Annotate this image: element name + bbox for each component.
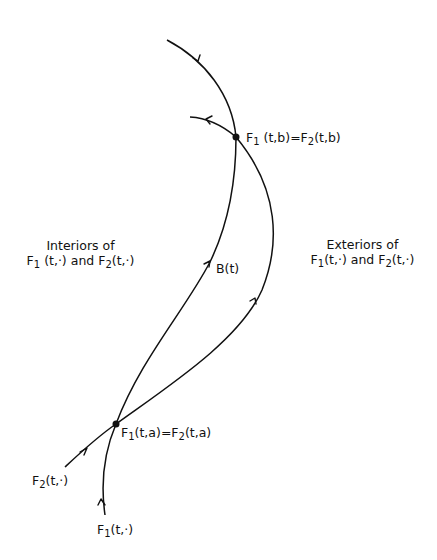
boundary-label: B(t) (216, 261, 239, 276)
exteriors-label: Exteriors of F1(t,·) and F2(t,·) (300, 237, 425, 271)
exteriors-formula: F1(t,·) and F2(t,·) (300, 252, 425, 271)
f2-args: (t,·) (112, 253, 135, 268)
bottom-intersection-dot (113, 421, 120, 428)
f1-top-arrow-icon (193, 55, 200, 61)
f1-args: (t,·) (111, 522, 134, 537)
f1-symbol: F (311, 252, 318, 267)
f1-args: (t,·) (324, 252, 347, 267)
f2-start-label: F2(t,·) (32, 473, 68, 492)
top-intersection-label: F1 (t,b)=F2(t,b) (246, 130, 341, 149)
f2-start-arrow-icon (80, 448, 87, 455)
f1-subscript: 1 (253, 136, 259, 147)
f1-symbol: F (27, 253, 34, 268)
and-text: and (67, 253, 98, 268)
f2-symbol: F (171, 425, 178, 440)
equals-sign: = (290, 130, 300, 145)
and-text: and (347, 252, 378, 267)
f2-args: (t,a) (185, 425, 211, 440)
f2-trajectory-curve (65, 117, 273, 467)
f2-args: (t,b) (314, 130, 341, 145)
f2-top-arrow-icon (206, 116, 212, 124)
f2-args: (t,·) (46, 473, 69, 488)
f2-symbol: F (301, 130, 308, 145)
f1-args: (t,a) (135, 425, 161, 440)
bottom-intersection-label: F1(t,a)=F2(t,a) (121, 425, 211, 444)
f1-args: (t,b) (264, 130, 291, 145)
interiors-heading: Interiors of (18, 238, 143, 253)
top-intersection-dot (233, 134, 240, 141)
f1-start-label: F1(t,·) (97, 522, 133, 541)
f2-args: (t,·) (392, 252, 415, 267)
f1-args: (t,·) (40, 253, 67, 268)
interiors-formula: F1 (t,·) and F2(t,·) (18, 253, 143, 272)
equals-sign: = (161, 425, 171, 440)
interiors-label: Interiors of F1 (t,·) and F2(t,·) (18, 238, 143, 272)
exteriors-heading: Exteriors of (300, 237, 425, 252)
